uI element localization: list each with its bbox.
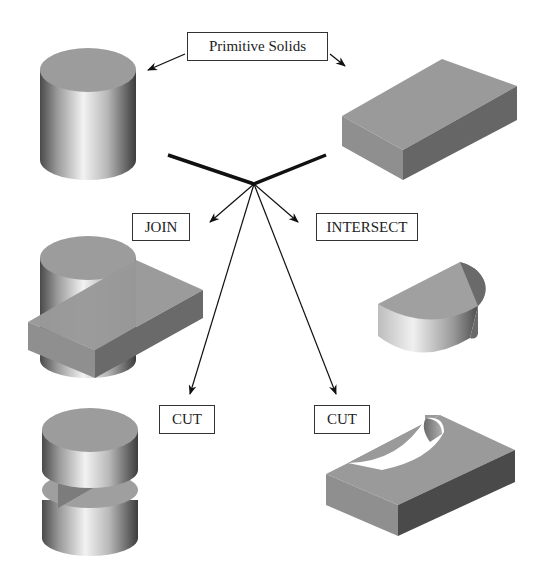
intersect-label: INTERSECT bbox=[316, 213, 418, 241]
cut-cylinder-result bbox=[42, 408, 138, 556]
primitive-box bbox=[342, 59, 517, 180]
cut-left-label: CUT bbox=[159, 405, 215, 434]
boolean-operations-diagram bbox=[0, 0, 545, 574]
join-text: JOIN bbox=[145, 220, 178, 235]
intersect-result-shape bbox=[378, 262, 486, 353]
join-label: JOIN bbox=[132, 213, 190, 241]
arrow-intersect bbox=[254, 184, 298, 222]
arrow-to-cylinder bbox=[148, 54, 185, 70]
cut-left-text: CUT bbox=[172, 412, 202, 427]
arrow-join bbox=[210, 184, 254, 222]
primitive-solids-text: Primitive Solids bbox=[209, 39, 306, 54]
primitive-solids-label: Primitive Solids bbox=[187, 32, 328, 61]
merge-line-right bbox=[254, 155, 326, 184]
primitive-cylinder bbox=[40, 48, 136, 180]
join-result-shape bbox=[28, 236, 203, 378]
intersect-text: INTERSECT bbox=[327, 220, 408, 235]
merge-line-left bbox=[168, 155, 254, 184]
cut-right-label: CUT bbox=[314, 405, 370, 434]
arrow-to-box bbox=[330, 54, 345, 66]
cut-right-text: CUT bbox=[327, 412, 357, 427]
